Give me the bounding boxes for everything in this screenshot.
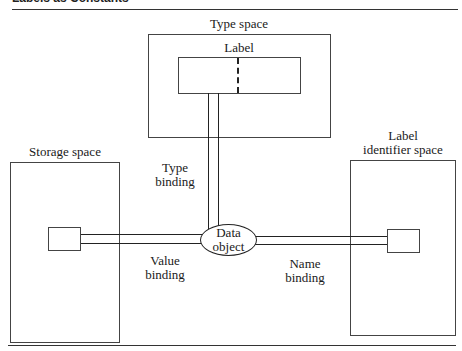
data-object: Data object [200,224,257,256]
label-divider [237,58,239,93]
storage-cell [48,227,81,251]
type-binding-label-1: Type [150,160,200,175]
bottom-rule [8,345,456,346]
storage-space-title: Storage space [10,144,120,159]
label-title: Label [178,40,300,55]
name-binding-label-2: binding [275,270,335,285]
figure-header: Labels as Constants [12,0,129,5]
value-binding-label-2: binding [135,267,195,282]
identifier-cell [387,229,420,253]
name-binding-label-1: Name [275,256,335,271]
type-binding-line-right [218,93,219,227]
label-identifier-title-1: Label [350,128,456,143]
label-identifier-title-2: identifier space [350,142,456,157]
label-box [178,57,301,94]
name-binding-line-top [255,236,387,237]
storage-space-box [10,162,120,343]
type-space-title: Type space [148,16,330,31]
name-binding-line-bottom [255,244,387,245]
type-binding-line-left [208,93,209,229]
data-object-label-2: object [213,240,245,254]
top-rule [12,9,458,10]
value-binding-label-1: Value [135,253,195,268]
data-object-label-1: Data [213,226,245,240]
value-binding-line-top [81,234,203,235]
type-binding-label-2: binding [150,174,200,189]
value-binding-line-bottom [81,243,203,244]
